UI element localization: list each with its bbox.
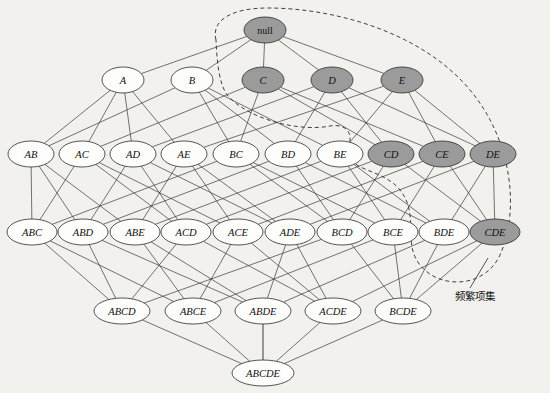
node-label: DE — [485, 149, 501, 160]
node-label: BCDE — [389, 306, 417, 317]
lattice-edge — [276, 323, 320, 362]
lattice-node-a[interactable]: A — [102, 67, 144, 93]
lattice-node-be[interactable]: BE — [317, 141, 363, 167]
lattice-edge — [31, 167, 32, 219]
lattice-node-bd[interactable]: BD — [265, 141, 311, 167]
node-label: AD — [125, 149, 140, 160]
lattice-edge — [349, 88, 475, 146]
lattice-edge — [142, 320, 241, 364]
node-label: CE — [435, 149, 449, 160]
node-label: D — [327, 75, 336, 86]
lattice-edge — [310, 161, 474, 224]
lattice-node-bde[interactable]: BDE — [419, 219, 469, 245]
lattice-edge — [206, 40, 251, 71]
lattice-edge — [493, 167, 494, 219]
lattice-edge — [103, 161, 269, 224]
node-label: BDE — [434, 227, 455, 238]
frequent-itemset-annotation-label: 频繁项集 — [455, 290, 496, 302]
node-label: BE — [334, 149, 347, 160]
itemset-lattice-figure: nullABCDEABACADAEBCBDBECDCEDEABCABDABEAC… — [0, 0, 550, 393]
lattice-node-null[interactable]: null — [244, 17, 286, 43]
node-label: BC — [229, 149, 243, 160]
node-label: BCD — [332, 227, 353, 238]
lattice-node-abce[interactable]: ABCE — [165, 298, 221, 324]
lattice-node-bc[interactable]: BC — [213, 141, 259, 167]
node-label: ABCD — [107, 306, 136, 317]
lattice-edge — [258, 161, 423, 224]
lattice-edge — [351, 244, 393, 299]
lattice-edge — [206, 161, 372, 224]
lattice-node-b[interactable]: B — [171, 67, 213, 93]
lattice-node-bcde[interactable]: BCDE — [375, 298, 431, 324]
lattice-edge — [204, 86, 384, 147]
lattice-edge — [341, 92, 381, 142]
lattice-node-de[interactable]: DE — [470, 141, 516, 167]
lattice-node-e[interactable]: E — [381, 67, 423, 93]
node-label: A — [119, 75, 127, 86]
lattice-edge — [152, 87, 314, 147]
lattice-node-bce[interactable]: BCE — [368, 219, 418, 245]
lattice-edge — [305, 163, 426, 223]
annotation-leader-line — [470, 258, 488, 288]
node-label: ABE — [124, 227, 145, 238]
lattice-node-cd[interactable]: CD — [368, 141, 414, 167]
node-label: E — [398, 75, 406, 86]
lattice-edge — [267, 245, 285, 298]
lattice-node-acde[interactable]: ACDE — [305, 298, 361, 324]
lattice-node-abd[interactable]: ABD — [58, 219, 108, 245]
lattice-node-ade[interactable]: ADE — [265, 219, 315, 245]
node-label: AB — [24, 149, 38, 160]
frequent-itemset-border-path — [215, 8, 510, 282]
lattice-node-abcde[interactable]: ABCDE — [232, 360, 294, 386]
lattice-node-acd[interactable]: ACD — [161, 219, 211, 245]
lattice-node-bcd[interactable]: BCD — [317, 219, 367, 245]
node-label: null — [257, 25, 273, 36]
node-label: ABCE — [179, 306, 207, 317]
lattice-node-ab[interactable]: AB — [8, 141, 54, 167]
node-label: ACE — [227, 227, 248, 238]
lattice-edge — [133, 92, 175, 143]
lattice-edge — [206, 323, 250, 362]
lattice-node-abcd[interactable]: ABCD — [94, 298, 150, 324]
lattice-edge — [44, 90, 110, 143]
lattice-edge — [297, 245, 326, 299]
lattice-edge — [50, 241, 174, 302]
node-label: CDE — [485, 227, 507, 238]
lattice-node-d[interactable]: D — [311, 67, 353, 93]
node-label: AC — [74, 149, 89, 160]
node-label: ADE — [279, 227, 301, 238]
node-label: ABCDE — [245, 368, 280, 379]
lattice-edge — [283, 240, 424, 302]
node-label: B — [189, 75, 196, 86]
lattice-edge — [144, 239, 321, 303]
lattice-node-abc[interactable]: ABC — [7, 219, 57, 245]
node-label: C — [259, 75, 267, 86]
lattice-edge — [144, 244, 184, 299]
lattice-node-ce[interactable]: CE — [419, 141, 465, 167]
lattice-edge — [253, 163, 375, 223]
node-label: ABC — [21, 227, 43, 238]
lattice-edge — [264, 43, 265, 67]
lattice-edge — [155, 161, 321, 224]
lattice-node-abe[interactable]: ABE — [110, 219, 160, 245]
lattice-svg: nullABCDEABACADAEBCBDBECDCEDEABCABDABEAC… — [0, 0, 550, 393]
lattice-node-cde[interactable]: CDE — [470, 219, 520, 245]
lattice-edge — [143, 166, 177, 219]
node-label: BD — [281, 149, 295, 160]
annotation-layer: 频繁项集 — [455, 258, 496, 302]
lattice-edge — [284, 320, 382, 364]
node-label: BCE — [383, 227, 403, 238]
node-label: ABDE — [249, 306, 277, 317]
lattice-edge — [205, 90, 274, 143]
node-label: AE — [177, 149, 191, 160]
node-label: ABD — [72, 227, 94, 238]
frequent-itemset-boundary — [215, 8, 510, 282]
lattice-edge — [132, 244, 176, 299]
lattice-node-c[interactable]: C — [242, 67, 284, 93]
lattice-node-ace[interactable]: ACE — [213, 219, 263, 245]
lattice-node-ad[interactable]: AD — [110, 141, 156, 167]
node-label: ACD — [175, 227, 197, 238]
lattice-node-ae[interactable]: AE — [161, 141, 207, 167]
lattice-node-abde[interactable]: ABDE — [235, 298, 291, 324]
lattice-node-ac[interactable]: AC — [59, 141, 105, 167]
